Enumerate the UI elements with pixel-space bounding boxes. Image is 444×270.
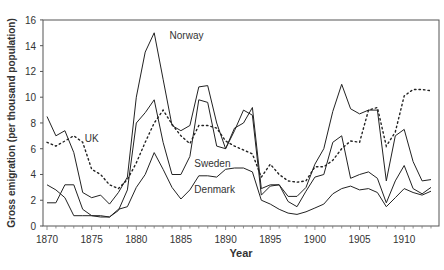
y-tick-label: 8 [30, 118, 36, 129]
label-uk: UK [85, 133, 99, 144]
emigration-line-chart: 0246810121416 18701875188018851890189519… [0, 0, 444, 270]
x-tick-label: 1900 [304, 234, 327, 245]
y-tick-label: 6 [30, 144, 36, 155]
y-tick-label: 2 [30, 195, 36, 206]
y-axis-title: Gross emigration (per thousand populatio… [6, 18, 17, 227]
y-tick-label: 0 [30, 221, 36, 232]
series-lines [47, 33, 431, 217]
y-tick-label: 10 [25, 92, 37, 103]
x-tick-label: 1895 [259, 234, 282, 245]
y-tick-label: 14 [25, 41, 37, 52]
label-sweden: Sweden [194, 158, 230, 169]
label-denmark: Denmark [194, 184, 236, 195]
series-labels: NorwayUKSwedenDenmark [85, 30, 236, 194]
y-tick-label: 12 [25, 66, 37, 77]
x-axis-ticks: 187018751880188518901895190019051910 [36, 226, 431, 245]
y-tick-label: 16 [25, 15, 37, 26]
x-axis-title: Year [229, 247, 253, 259]
y-tick-label: 4 [30, 169, 36, 180]
x-tick-label: 1875 [81, 234, 104, 245]
series-line-uk [47, 90, 431, 189]
x-tick-label: 1885 [170, 234, 193, 245]
y-axis-ticks: 0246810121416 [25, 15, 43, 232]
x-tick-label: 1880 [125, 234, 148, 245]
x-tick-label: 1910 [393, 234, 416, 245]
x-tick-label: 1870 [36, 234, 59, 245]
label-norway: Norway [170, 30, 204, 41]
series-line-denmark [47, 153, 431, 217]
x-tick-label: 1905 [348, 234, 371, 245]
x-tick-label: 1890 [214, 234, 237, 245]
